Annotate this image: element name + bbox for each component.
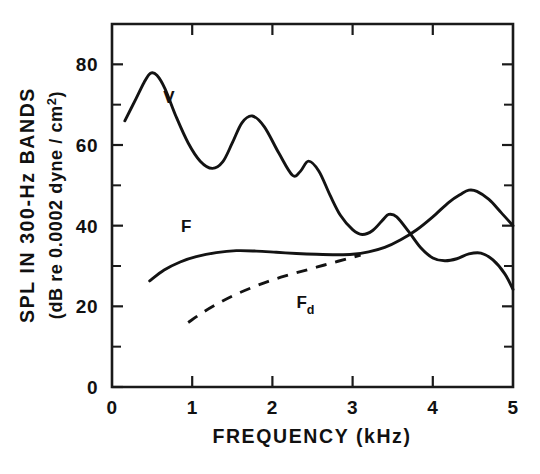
y-axis-ticks (112, 64, 513, 387)
y-axis-title-line2-close: ) (46, 91, 66, 98)
series-curve-f (150, 190, 513, 281)
series-label-text: V (163, 88, 175, 107)
chart-canvas: 020406080 012345 VFFd FREQUENCY (kHz) SP… (0, 0, 540, 474)
y-axis-tick-labels: 020406080 (76, 54, 98, 398)
series-label-text: F (296, 293, 306, 312)
axis-box (112, 24, 513, 387)
x-tick-label: 2 (267, 397, 278, 418)
series-curve-v (125, 73, 513, 290)
y-tick-label: 0 (87, 377, 98, 398)
series-label-subscript: d (307, 303, 315, 317)
series-label-fd: Fd (296, 293, 314, 317)
series-label-f: F (181, 217, 191, 236)
x-tick-label: 3 (347, 397, 358, 418)
data-series-group (125, 73, 513, 323)
series-label-v: V (163, 88, 175, 107)
series-curve-fd (188, 255, 360, 322)
x-tick-label: 0 (106, 397, 117, 418)
x-axis-title: FREQUENCY (kHz) (212, 425, 411, 447)
y-tick-label: 20 (76, 296, 98, 317)
y-tick-label: 80 (76, 54, 98, 75)
series-annotations: VFFd (163, 88, 314, 318)
y-axis-title-line2-text: (dB re 0.0002 dyne / cm (46, 105, 66, 319)
series-label-text: F (181, 217, 191, 236)
x-axis-ticks (192, 24, 433, 387)
y-tick-label: 40 (76, 216, 98, 237)
x-tick-label: 1 (187, 397, 198, 418)
x-tick-label: 4 (427, 397, 438, 418)
y-axis-title-superscript: 2 (44, 97, 59, 105)
spl-frequency-chart: 020406080 012345 VFFd FREQUENCY (kHz) SP… (0, 0, 540, 474)
y-axis-title-line1: SPL IN 300-Hz BANDS (16, 87, 38, 323)
x-axis-tick-labels: 012345 (106, 397, 518, 418)
plot-frame (112, 24, 513, 387)
y-tick-label: 60 (76, 135, 98, 156)
y-axis-title-line2: (dB re 0.0002 dyne / cm2) (44, 91, 66, 319)
x-tick-label: 5 (507, 397, 518, 418)
